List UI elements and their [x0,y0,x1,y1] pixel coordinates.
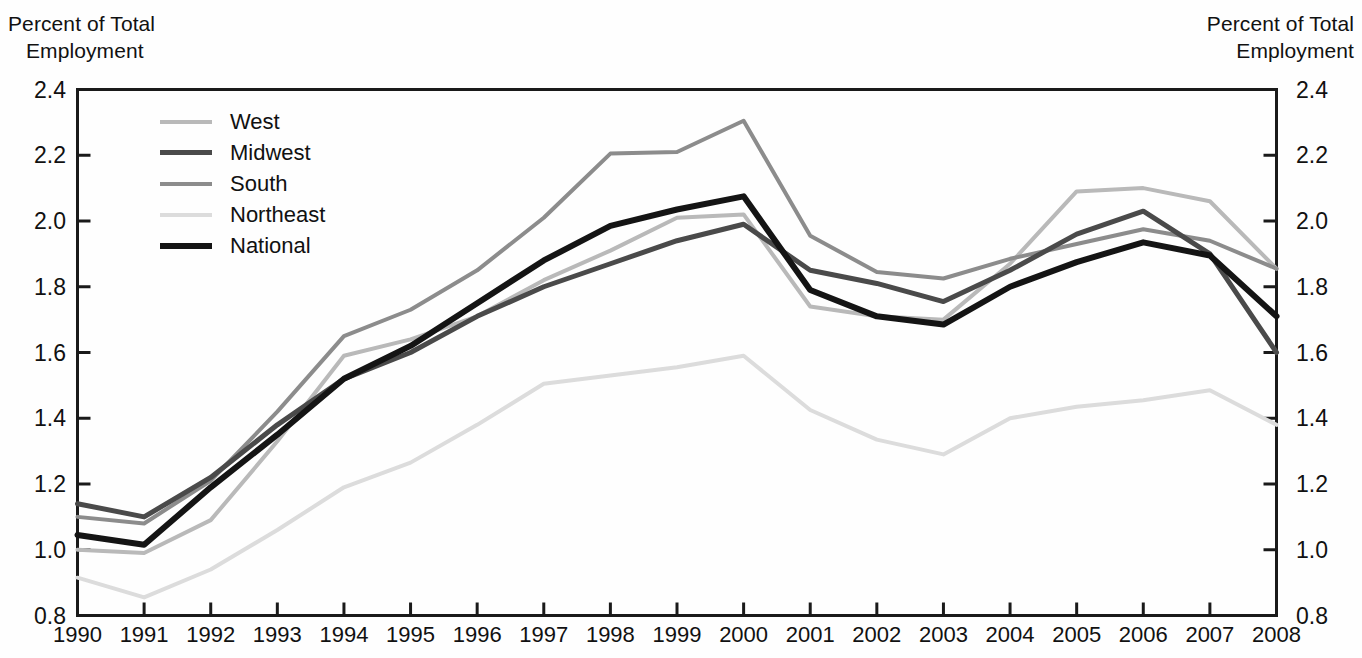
legend-swatch-national [160,243,212,249]
y-tick-label-right-6: 2.0 [1296,208,1328,235]
series-line-northeast [78,356,1277,598]
x-tick-label-2007: 2007 [1185,622,1234,648]
y-tick-label-right-1: 1.0 [1296,536,1328,563]
x-tick-label-2000: 2000 [719,622,768,648]
x-tick-label-2008: 2008 [1252,622,1301,648]
x-tick-label-2004: 2004 [986,622,1035,648]
x-tick-label-2003: 2003 [919,622,968,648]
x-tick-label-1996: 1996 [453,622,502,648]
legend-item-northeast[interactable]: Northeast [160,199,325,230]
y-tick-label-right-2: 1.2 [1296,471,1328,498]
x-tick-label-1991: 1991 [120,622,169,648]
y-tick-label-left-4: 1.6 [34,339,66,366]
x-tick-label-2002: 2002 [852,622,901,648]
x-tick-label-2006: 2006 [1119,622,1168,648]
legend-item-national[interactable]: National [160,230,325,261]
legend-label-midwest: Midwest [230,142,311,164]
legend-label-south: South [230,173,288,195]
legend-label-northeast: Northeast [230,204,325,226]
legend-swatch-south [160,182,212,186]
x-tick-label-1990: 1990 [53,622,102,648]
legend-swatch-northeast [160,213,212,217]
y-tick-label-left-7: 2.2 [34,142,66,169]
x-tick-label-1997: 1997 [519,622,568,648]
y-tick-label-right-3: 1.4 [1296,405,1328,432]
y-tick-label-left-2: 1.2 [34,471,66,498]
y-tick-label-left-3: 1.4 [34,405,66,432]
y-tick-label-right-5: 1.8 [1296,273,1328,300]
x-tick-label-2001: 2001 [786,622,835,648]
x-tick-label-1999: 1999 [653,622,702,648]
y-tick-label-left-8: 2.4 [34,76,66,103]
chart-legend: WestMidwestSouthNortheastNational [160,106,325,261]
x-tick-label-1998: 1998 [586,622,635,648]
legend-item-midwest[interactable]: Midwest [160,137,325,168]
line-chart-plot [0,0,1362,658]
y-tick-label-left-5: 1.8 [34,273,66,300]
chart-canvas: Percent of TotalEmployment Percent of To… [0,0,1362,658]
legend-label-national: National [230,235,311,257]
y-tick-label-right-8: 2.4 [1296,76,1328,103]
x-tick-label-1995: 1995 [386,622,435,648]
x-tick-label-1994: 1994 [319,622,368,648]
x-tick-label-2005: 2005 [1052,622,1101,648]
y-tick-label-right-7: 2.2 [1296,142,1328,169]
legend-swatch-midwest [160,150,212,155]
legend-item-west[interactable]: West [160,106,325,137]
y-tick-label-right-4: 1.6 [1296,339,1328,366]
x-tick-label-1993: 1993 [253,622,302,648]
legend-label-west: West [230,111,280,133]
x-tick-label-1992: 1992 [186,622,235,648]
legend-swatch-west [160,120,212,124]
legend-item-south[interactable]: South [160,168,325,199]
y-tick-label-left-1: 1.0 [34,536,66,563]
y-tick-label-left-6: 2.0 [34,208,66,235]
